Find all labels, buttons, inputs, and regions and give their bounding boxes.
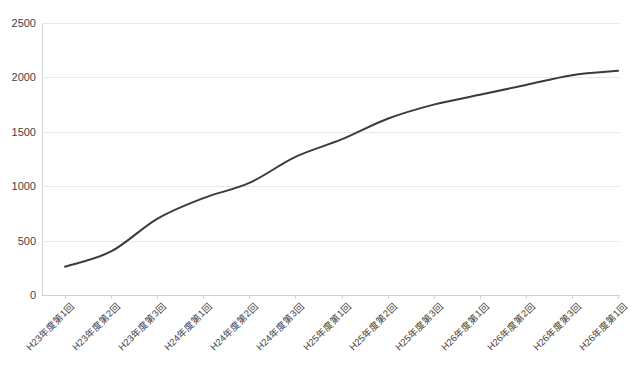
series-path <box>65 71 618 267</box>
line-chart: 05001000150020002500 H23年度第1回H23年度第2回H23… <box>0 0 644 374</box>
series-line-cumulative <box>0 0 644 374</box>
